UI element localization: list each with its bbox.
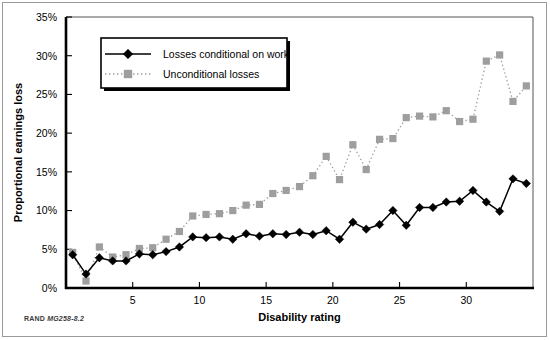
data-point-square (283, 187, 290, 194)
x-axis: 51015202530 (130, 282, 472, 306)
data-point-diamond (242, 230, 250, 238)
data-point-diamond (522, 179, 530, 187)
y-tick-label: 15% (36, 166, 57, 178)
x-tick-label: 20 (327, 294, 339, 306)
chart-canvas: 0%5%10%15%20%25%30%35%51015202530Proport… (0, 0, 550, 340)
legend-label: Unconditional losses (163, 68, 259, 80)
series-conditional (68, 175, 530, 279)
x-tick-label: 10 (194, 294, 206, 306)
data-point-square (376, 136, 383, 143)
data-point-square (496, 51, 503, 58)
x-axis-title: Disability rating (258, 311, 341, 323)
data-point-square (509, 98, 516, 105)
figure-container: 0%5%10%15%20%25%30%35%51015202530Proport… (0, 0, 550, 340)
data-point-square (323, 153, 330, 160)
data-point-square (443, 107, 450, 114)
y-tick-label: 5% (42, 243, 57, 255)
data-point-diamond (282, 230, 290, 238)
data-point-square (203, 211, 210, 218)
data-point-square (124, 70, 132, 78)
data-point-square (189, 212, 196, 219)
data-point-square (349, 141, 356, 148)
data-point-square (309, 172, 316, 179)
data-point-square (243, 202, 250, 209)
data-point-diamond (269, 230, 277, 238)
legend-box (101, 38, 287, 88)
data-point-diamond (255, 232, 263, 240)
data-point-diamond (362, 225, 370, 233)
data-point-square (363, 166, 370, 173)
data-point-diamond (509, 175, 517, 183)
figure-credit: RAND MG258-8.2 (24, 315, 84, 322)
data-point-square (469, 116, 476, 123)
data-point-square (216, 210, 223, 217)
data-point-square (229, 207, 236, 214)
data-point-diamond (442, 198, 450, 206)
data-point-square (96, 243, 103, 250)
data-point-square (269, 190, 276, 197)
credit-rand: RAND (24, 315, 45, 322)
data-point-diamond (215, 233, 223, 241)
data-point-diamond (322, 227, 330, 235)
x-tick-label: 30 (460, 294, 472, 306)
data-point-square (176, 228, 183, 235)
data-point-square (456, 118, 463, 125)
data-point-square (429, 113, 436, 120)
data-point-square (416, 113, 423, 120)
series-line (73, 179, 527, 274)
data-point-square (162, 236, 169, 243)
data-point-square (256, 201, 263, 208)
x-tick-label: 5 (130, 294, 136, 306)
y-tick-label: 10% (36, 204, 57, 216)
credit-code: MG258-8.2 (47, 315, 84, 322)
data-point-square (523, 82, 530, 89)
x-tick-label: 15 (260, 294, 272, 306)
data-point-square (389, 135, 396, 142)
legend-item: Unconditional losses (105, 68, 259, 80)
legend-label: Losses conditional on work (163, 48, 290, 60)
chart-legend: Losses conditional on workUnconditional … (101, 38, 290, 91)
data-point-square (336, 176, 343, 183)
data-point-square (296, 183, 303, 190)
data-point-diamond (309, 230, 317, 238)
y-tick-label: 30% (36, 50, 57, 62)
data-point-diamond (429, 203, 437, 211)
data-point-square (483, 58, 490, 65)
data-point-diamond (202, 233, 210, 241)
y-tick-label: 20% (36, 127, 57, 139)
data-point-diamond (229, 235, 237, 243)
data-point-diamond (162, 247, 170, 255)
data-point-diamond (149, 251, 157, 259)
x-tick-label: 25 (394, 294, 406, 306)
data-point-diamond (295, 228, 303, 236)
y-axis-title: Proportional earnings loss (12, 83, 24, 222)
data-point-square (403, 114, 410, 121)
y-tick-label: 25% (36, 88, 57, 100)
y-tick-label: 35% (36, 11, 57, 23)
y-tick-label: 0% (42, 282, 57, 294)
